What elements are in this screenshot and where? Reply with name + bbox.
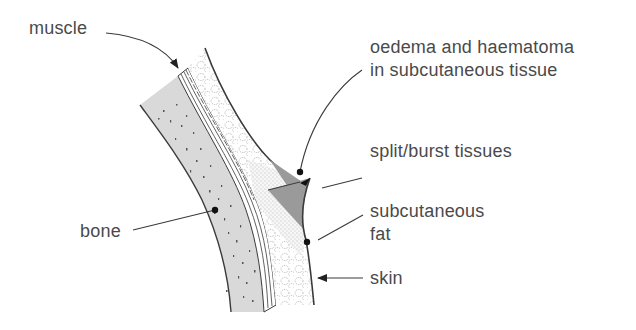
split-leader (322, 178, 362, 188)
bone-leader (133, 210, 215, 230)
fat-leader (318, 215, 363, 240)
muscle-leader (106, 33, 178, 68)
label-oedema-line2: in subcutaneous tissue (370, 59, 558, 82)
label-muscle: muscle (29, 17, 87, 40)
label-subcutaneous-line1: subcutaneous (370, 200, 485, 223)
oedema-leader (300, 70, 362, 172)
label-subcutaneous-line2: fat (370, 223, 391, 246)
label-skin: skin (370, 267, 403, 290)
label-bone: bone (80, 220, 121, 243)
label-split-burst-tissues: split/burst tissues (370, 140, 512, 163)
label-oedema-line1: oedema and haematoma (370, 36, 574, 59)
